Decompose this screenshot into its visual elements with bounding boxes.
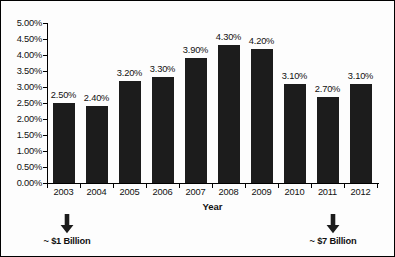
bar-2007[interactable] bbox=[185, 58, 207, 183]
y-tick-mark bbox=[43, 55, 47, 56]
bar-2012[interactable] bbox=[350, 84, 372, 183]
y-tick-mark bbox=[43, 23, 47, 24]
bar-chart-figure: 5.00% 4.50% 4.00% 3.50% 3.00% 2.50% 2.00… bbox=[0, 0, 395, 257]
bar-value-label: 3.10% bbox=[282, 71, 307, 81]
bar-value-label: 3.10% bbox=[348, 71, 373, 81]
bar-2006[interactable] bbox=[152, 77, 174, 183]
annotation-right: ~ $7 Billion bbox=[273, 213, 393, 246]
y-tick-mark bbox=[43, 119, 47, 120]
bar-value-label: 3.90% bbox=[183, 45, 208, 55]
down-arrow-icon bbox=[273, 213, 393, 235]
bar-value-label: 2.40% bbox=[84, 93, 109, 103]
bar-2010[interactable] bbox=[284, 84, 306, 183]
y-tick-mark bbox=[43, 87, 47, 88]
y-tick-label: 1.00% bbox=[17, 146, 42, 156]
x-tick-label-2011: 2011 bbox=[318, 187, 337, 197]
x-axis-title: Year bbox=[1, 201, 395, 212]
x-tick-label-2010: 2010 bbox=[285, 187, 305, 197]
bar-value-label: 2.70% bbox=[315, 84, 340, 94]
y-tick-label: 4.00% bbox=[17, 50, 42, 60]
y-tick-label: 2.00% bbox=[17, 114, 42, 124]
annotation-left: ~ $1 Billion bbox=[7, 213, 127, 246]
bar-2011[interactable] bbox=[317, 97, 339, 183]
y-tick-mark bbox=[43, 151, 47, 152]
x-tick-label-2012: 2012 bbox=[351, 187, 371, 197]
y-tick-label: 4.50% bbox=[17, 34, 42, 44]
y-tick-label: 0.00% bbox=[17, 178, 42, 188]
x-tick-label-2009: 2009 bbox=[252, 187, 272, 197]
x-tick-label-2007: 2007 bbox=[186, 187, 206, 197]
y-tick-label: 1.50% bbox=[17, 130, 42, 140]
annotation-right-text: ~ $7 Billion bbox=[273, 236, 393, 246]
bar-2005[interactable] bbox=[119, 81, 141, 183]
y-tick-label: 3.50% bbox=[17, 66, 42, 76]
y-tick-label: 5.00% bbox=[17, 18, 42, 28]
bar-2008[interactable] bbox=[218, 45, 240, 183]
bar-2009[interactable] bbox=[251, 49, 273, 183]
x-tick-label-2005: 2005 bbox=[120, 187, 140, 197]
bar-value-label: 4.20% bbox=[249, 36, 274, 46]
x-tick-label-2003: 2003 bbox=[54, 187, 74, 197]
x-axis-title-text: Year bbox=[202, 201, 222, 212]
y-tick-mark bbox=[43, 103, 47, 104]
bar-value-label: 4.30% bbox=[216, 32, 241, 42]
x-axis-tick-labels: 2003 2004 2005 2006 2007 2008 2009 2010 … bbox=[47, 187, 379, 201]
annotation-left-text: ~ $1 Billion bbox=[7, 236, 127, 246]
y-tick-label: 2.50% bbox=[17, 98, 42, 108]
y-tick-mark bbox=[43, 71, 47, 72]
y-axis-tick-labels: 5.00% 4.50% 4.00% 3.50% 3.00% 2.50% 2.00… bbox=[1, 23, 45, 183]
bar-value-label: 3.20% bbox=[117, 68, 142, 78]
bar-2003[interactable] bbox=[53, 103, 75, 183]
x-tick-label-2008: 2008 bbox=[219, 187, 239, 197]
down-arrow-icon bbox=[7, 213, 127, 235]
y-tick-mark bbox=[43, 167, 47, 168]
y-tick-label: 0.50% bbox=[17, 162, 42, 172]
y-tick-label: 3.00% bbox=[17, 82, 42, 92]
bar-2004[interactable] bbox=[86, 106, 108, 183]
bar-value-label: 3.30% bbox=[150, 64, 175, 74]
y-tick-mark bbox=[43, 135, 47, 136]
y-tick-mark bbox=[43, 39, 47, 40]
y-axis-line bbox=[47, 23, 48, 183]
x-tick-label-2006: 2006 bbox=[153, 187, 173, 197]
plot-area: 2.50% 2.40% 3.20% 3.30% 3.90% 4.30% 4.20… bbox=[47, 23, 379, 183]
x-tick-label-2004: 2004 bbox=[87, 187, 107, 197]
bar-value-label: 2.50% bbox=[51, 90, 76, 100]
